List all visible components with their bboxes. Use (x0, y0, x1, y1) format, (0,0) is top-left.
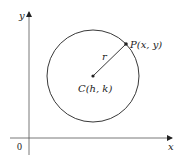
radius-label: r (102, 51, 108, 62)
point-label: P(x, y) (129, 39, 162, 50)
y-axis-label: y (18, 10, 25, 21)
origin-label: 0 (17, 141, 22, 152)
circle-diagram: y x 0 P(x, y) r C(h, k) (0, 0, 184, 166)
point-p (124, 42, 128, 46)
radius-line (93, 44, 126, 76)
center-point (91, 74, 94, 77)
center-label: C(h, k) (78, 83, 112, 94)
x-axis-label: x (168, 141, 174, 152)
